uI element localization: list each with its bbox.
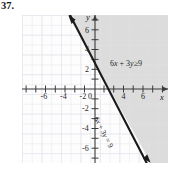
y-tick-label-2: 2 — [85, 65, 89, 74]
y-tick-label-neg6: -6 — [82, 144, 89, 153]
inequality-plus: + — [120, 59, 125, 68]
y-tick-label-neg2: -2 — [82, 104, 89, 113]
inequality-rhs: 9 — [138, 59, 142, 68]
y-tick-label-4: 4 — [85, 45, 89, 54]
inequality-label: 6x + 3y≥9 — [110, 59, 142, 68]
problem-number: 37. — [1, 0, 14, 12]
y-tick-label-6: 6 — [85, 26, 89, 35]
coordinate-plane: -6 -4 -2 0 4 6 6 4 2 -2 -4 -6 x y 6x + 3… — [22, 15, 168, 163]
x-axis-label: x — [160, 92, 164, 102]
y-axis-label: y — [86, 12, 90, 22]
x-tick-label-zero: 0 — [88, 92, 92, 101]
x-tick-label-4: 4 — [122, 92, 126, 101]
x-tick-label-neg2: -2 — [80, 92, 87, 101]
x-tick-label-neg4: -4 — [60, 92, 67, 101]
y-tick-label-neg4: -4 — [82, 124, 89, 133]
x-tick-label-neg6: -6 — [41, 92, 48, 101]
figure-container: 37. — [0, 0, 175, 170]
inequality-var-x: x — [114, 59, 118, 68]
x-tick-label-6: 6 — [141, 92, 145, 101]
graph-svg — [22, 15, 168, 163]
